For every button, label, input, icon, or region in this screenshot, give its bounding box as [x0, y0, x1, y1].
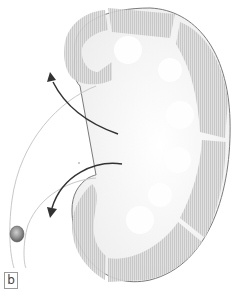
kidney-stone	[10, 226, 24, 242]
panel-label: b	[4, 272, 18, 289]
marker-dot	[78, 162, 80, 164]
kidney-diagram	[0, 0, 233, 296]
